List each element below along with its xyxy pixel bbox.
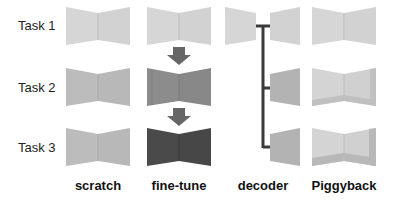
decoder-task-1-head [270,7,300,45]
finetune-task-1-network [147,7,211,45]
scratch-task-3-network [66,128,130,166]
decoder-connector-lines [256,26,270,148]
diagram-canvas [0,0,394,204]
scratch-task-2-network [66,68,130,106]
decoder-shared-encoder [225,7,256,45]
scratch-task-1-network [66,7,130,45]
piggyback-task-2-network [312,68,376,106]
piggyback-task-1-network [312,7,376,45]
piggyback-task-3-network [312,128,376,166]
column-label-fine-tune: fine-tune [134,178,224,193]
column-label-piggyback: Piggyback [299,178,389,193]
arrow-down-icon [167,108,191,126]
column-label-scratch: scratch [53,178,143,193]
finetune-task-2-network [147,68,211,106]
decoder-task-3-head [270,128,300,166]
finetune-task-3-network [147,128,211,166]
decoder-task-2-head [270,68,300,106]
column-label-decoder: decoder [218,178,308,193]
arrow-down-icon [167,47,191,65]
